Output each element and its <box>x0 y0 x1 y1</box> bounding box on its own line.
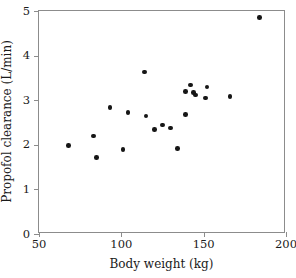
data-point <box>188 83 193 88</box>
data-point <box>175 146 180 151</box>
x-tick-label-200: 200 <box>275 239 296 251</box>
data-point <box>205 85 210 90</box>
data-point <box>152 127 157 132</box>
y-tick-label-1: 1 <box>23 184 30 196</box>
y-tick-label-5: 5 <box>23 6 30 18</box>
data-point <box>108 105 113 110</box>
x-tick-label-150: 150 <box>193 239 215 251</box>
plot-area: 012345 50100150200 <box>38 10 285 233</box>
data-point <box>168 126 173 131</box>
data-points-layer <box>39 11 284 232</box>
data-point <box>160 123 165 128</box>
y-tick-label-4: 4 <box>23 50 30 62</box>
x-axis-label: Body weight (kg) <box>38 258 285 270</box>
data-point <box>144 114 149 119</box>
y-tick-label-0: 0 <box>23 229 30 241</box>
data-point <box>126 110 131 115</box>
x-tick-label-100: 100 <box>110 239 132 251</box>
data-point <box>121 147 126 152</box>
data-point <box>183 89 188 94</box>
data-point <box>193 93 198 98</box>
y-tick-label-3: 3 <box>23 95 30 107</box>
y-tick-label-2: 2 <box>23 140 30 152</box>
data-point <box>94 155 99 160</box>
data-point <box>142 70 147 75</box>
data-point <box>228 94 233 99</box>
scatter-plot-figure: 012345 50100150200 Body weight (kg) Prop… <box>0 0 296 278</box>
data-point <box>91 134 96 139</box>
data-point <box>183 112 188 117</box>
data-point <box>203 96 208 101</box>
data-point <box>66 143 71 148</box>
data-point <box>257 15 262 20</box>
x-tick-label-50: 50 <box>32 239 47 251</box>
y-axis-label: Propofol clearance (L/min) <box>0 10 14 233</box>
